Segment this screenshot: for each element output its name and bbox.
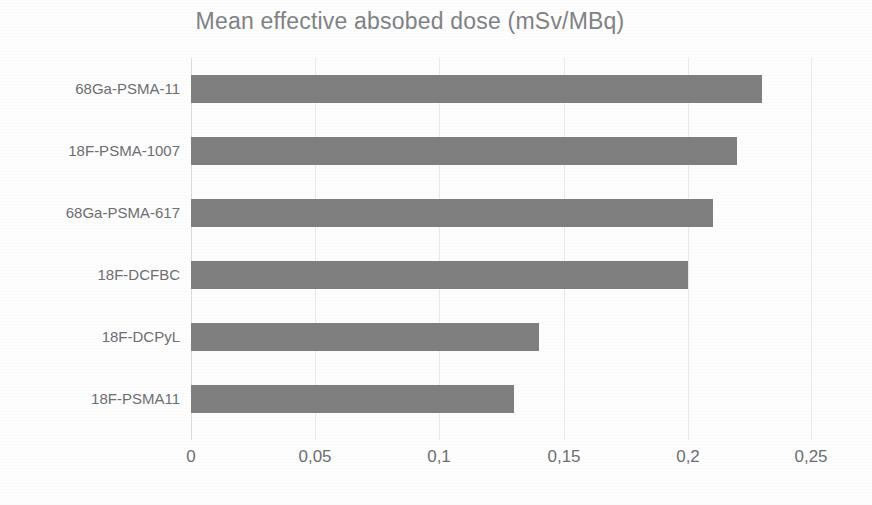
bar-18f-dcpyl: [191, 323, 539, 351]
bar-chart: Mean effective absobed dose (mSv/MBq) 68…: [0, 0, 872, 505]
gridline-zero: [191, 58, 192, 440]
category-label: 18F-DCPyL: [0, 306, 180, 368]
category-label: 18F-PSMA-1007: [0, 120, 180, 182]
category-label: 18F-DCFBC: [0, 244, 180, 306]
bar-18f-dcfbc: [191, 261, 688, 289]
x-tick-label: 0,1: [427, 447, 451, 467]
gridline: [439, 58, 440, 440]
x-tick-label: 0: [186, 447, 195, 467]
category-label: 68Ga-PSMA-11: [0, 58, 180, 120]
value-axis-labels: 0 0,05 0,1 0,15 0,2 0,25: [191, 447, 812, 477]
category-label: 18F-PSMA11: [0, 368, 180, 430]
category-axis-labels: 68Ga-PSMA-11 18F-PSMA-1007 68Ga-PSMA-617…: [0, 58, 180, 440]
bar-68ga-psma-11: [191, 75, 762, 103]
x-tick-label: 0,25: [794, 447, 827, 467]
chart-title: Mean effective absobed dose (mSv/MBq): [60, 8, 760, 35]
gridline: [688, 58, 689, 440]
gridline: [811, 58, 812, 440]
x-tick-label: 0,2: [676, 447, 700, 467]
category-label: 68Ga-PSMA-617: [0, 182, 180, 244]
gridline: [564, 58, 565, 440]
bar-68ga-psma-617: [191, 199, 713, 227]
bar-18f-psma11: [191, 385, 514, 413]
x-tick-label: 0,05: [298, 447, 331, 467]
plot-area: [191, 58, 812, 440]
x-tick-label: 0,15: [547, 447, 580, 467]
bar-18f-psma-1007: [191, 137, 737, 165]
gridline: [315, 58, 316, 440]
